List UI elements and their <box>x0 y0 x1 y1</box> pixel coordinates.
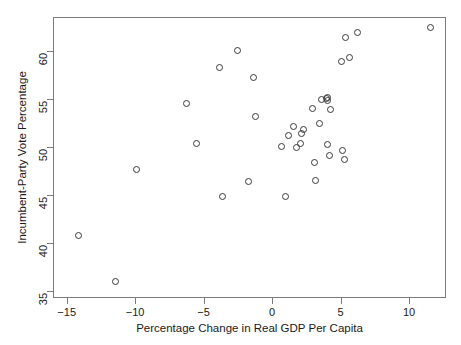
y-tick-label: 60 <box>37 49 49 69</box>
data-point <box>216 64 223 71</box>
data-point <box>252 113 259 120</box>
data-point <box>354 29 361 36</box>
y-tick-label: 55 <box>37 97 49 117</box>
data-point <box>427 24 434 31</box>
data-point <box>250 74 257 81</box>
x-tick-label: 0 <box>269 306 275 318</box>
data-point <box>316 120 323 127</box>
data-point <box>300 126 307 133</box>
data-point <box>285 132 292 139</box>
data-point <box>341 156 348 163</box>
x-tick-label: −5 <box>197 306 210 318</box>
data-point <box>219 193 226 200</box>
data-point <box>324 141 331 148</box>
x-axis-label: Percentage Change in Real GDP Per Capita <box>53 322 446 334</box>
data-point <box>112 278 119 285</box>
y-tick-label: 45 <box>37 193 49 213</box>
plot-data-area <box>54 18 445 297</box>
y-tick-label: 35 <box>37 289 49 309</box>
x-tick-label: 10 <box>403 306 415 318</box>
data-point <box>297 140 304 147</box>
data-point <box>133 166 140 173</box>
x-tick-label: −10 <box>126 306 145 318</box>
x-tick-mark <box>67 298 68 304</box>
data-point <box>75 232 82 239</box>
x-tick-mark <box>341 298 342 304</box>
y-tick-label: 40 <box>37 241 49 261</box>
data-point <box>309 105 316 112</box>
x-tick-mark <box>409 298 410 304</box>
data-point <box>342 34 349 41</box>
data-point <box>327 106 334 113</box>
data-point <box>312 177 319 184</box>
y-axis-label: Incumbent-Party Vote Percentage <box>16 17 32 298</box>
data-point <box>193 140 200 147</box>
x-tick-mark <box>204 298 205 304</box>
data-point <box>326 152 333 159</box>
x-tick-label: −15 <box>57 306 76 318</box>
data-point <box>282 193 289 200</box>
data-point <box>324 97 331 104</box>
data-point <box>339 147 346 154</box>
x-tick-mark <box>272 298 273 304</box>
data-point <box>245 178 252 185</box>
data-point <box>346 54 353 61</box>
data-point <box>338 58 345 65</box>
x-tick-label: 5 <box>337 306 343 318</box>
x-tick-mark <box>135 298 136 304</box>
plot-frame <box>53 17 446 298</box>
data-point <box>311 159 318 166</box>
y-tick-label: 50 <box>37 145 49 165</box>
scatter-plot-figure: −15−10−50510 354045505560 Percentage Cha… <box>0 0 461 345</box>
data-point <box>290 123 297 130</box>
data-point <box>234 47 241 54</box>
data-point <box>183 100 190 107</box>
data-point <box>278 143 285 150</box>
